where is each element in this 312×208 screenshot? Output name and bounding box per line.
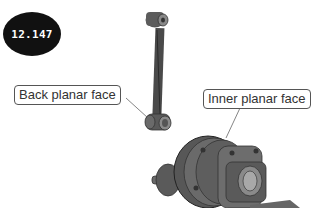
leader-line-inner bbox=[226, 108, 240, 138]
figure-number-badge: 12.147 bbox=[3, 12, 61, 56]
pump-housing-assembly bbox=[152, 136, 300, 208]
connecting-link bbox=[145, 12, 171, 130]
figure-number: 12.147 bbox=[11, 28, 53, 41]
callout-label: Inner planar face bbox=[208, 91, 306, 106]
callout-inner-planar-face: Inner planar face bbox=[203, 89, 311, 109]
callout-label: Back planar face bbox=[19, 87, 116, 102]
callout-back-planar-face: Back planar face bbox=[14, 85, 121, 105]
leader-line-back bbox=[126, 98, 148, 118]
